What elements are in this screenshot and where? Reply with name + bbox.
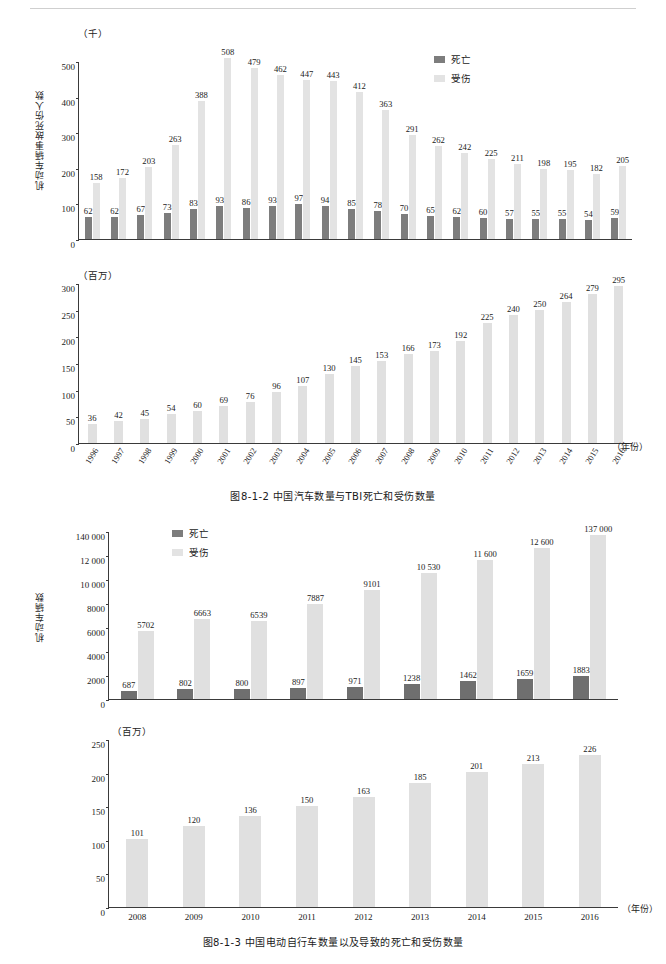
bar-value-label: 6663	[194, 608, 211, 618]
bar-value-label: 65	[426, 205, 435, 215]
bar-value-label: 195	[564, 159, 577, 169]
bar: 163	[353, 797, 375, 907]
bar: 1238	[404, 684, 420, 699]
bar-group: 107	[290, 284, 316, 443]
y-axis-tick-label: 400	[62, 98, 80, 108]
bar: 120	[183, 826, 205, 907]
bar: 5702	[138, 631, 154, 699]
bar-group: 73263	[158, 62, 184, 239]
bar-group: 97447	[290, 62, 316, 239]
bars-container: 3642455460697696107130145153166173192225…	[79, 284, 632, 443]
bar-value-label: 45	[141, 408, 150, 418]
bar-value-label: 57	[505, 208, 514, 218]
x-axis-tick-label: 2013	[531, 446, 549, 466]
bar-value-label: 163	[357, 786, 370, 796]
x-axis-tick-label: 2015	[583, 446, 601, 466]
bar: 262	[435, 146, 442, 239]
bar: 802	[177, 689, 193, 699]
bar: 242	[461, 153, 468, 239]
x-axis-unit: （年份）	[622, 902, 658, 915]
x-axis-tick: 2000	[184, 443, 210, 489]
bar-group: 54182	[579, 62, 605, 239]
x-axis-tick-label: 2005	[320, 446, 338, 466]
unit-label: （百万）	[112, 724, 152, 738]
x-axis-tick: 2014	[553, 443, 579, 489]
bar-group: 192	[448, 284, 474, 443]
bar-value-label: 213	[527, 753, 540, 763]
bar-value-label: 85	[347, 198, 356, 208]
y-axis-tick-label: 250	[62, 311, 80, 321]
bar-group: 250	[527, 284, 553, 443]
x-axis-tick: 2006	[342, 443, 368, 489]
bar: 363	[382, 110, 389, 239]
x-axis-tick: 1996	[79, 443, 105, 489]
bar-value-label: 250	[533, 299, 546, 309]
bar-value-label: 6539	[250, 610, 267, 620]
x-axis-tick-label: 2011	[298, 912, 316, 922]
bar-group: 146211 600	[448, 532, 505, 699]
x-axis-tick: 2012	[500, 443, 526, 489]
bar-group: 57211	[500, 62, 526, 239]
y-axis-tick-label: 12 000	[80, 556, 109, 566]
bar: 96	[272, 392, 281, 443]
bar-group: 130	[316, 284, 342, 443]
bar-value-label: 55	[531, 208, 540, 218]
y-axis-tick-label: 0	[71, 444, 80, 454]
bar-value-label: 291	[406, 124, 419, 134]
bar-value-label: 198	[537, 158, 550, 168]
bar-value-label: 479	[248, 57, 261, 67]
x-axis-tick: 2001	[211, 443, 237, 489]
y-axis-tick-mark	[76, 98, 79, 99]
bar: 462	[277, 75, 284, 239]
y-axis-tick-label: 200	[62, 169, 80, 179]
bar-group: 65262	[421, 62, 447, 239]
y-axis-tick-mark	[76, 311, 79, 312]
y-axis-tick-label: 10 000	[80, 580, 109, 590]
x-axis-tick-label: 2003	[267, 446, 285, 466]
bar-value-label: 172	[116, 167, 129, 177]
bar: 800	[234, 689, 250, 699]
bar: 291	[409, 135, 416, 239]
bar-value-label: 1883	[573, 665, 590, 675]
bar: 78	[374, 211, 381, 239]
bar-value-label: 93	[268, 195, 277, 205]
bar: 205	[619, 166, 626, 239]
bar-group: 85412	[342, 62, 368, 239]
bar-value-label: 166	[402, 343, 415, 353]
bar: 59	[611, 218, 618, 239]
bar-value-label: 971	[349, 676, 362, 686]
y-axis-tick-label: 250	[92, 740, 110, 750]
bar: 62	[453, 217, 460, 239]
x-axis-tick: 2002	[237, 443, 263, 489]
bar: 388	[198, 101, 205, 239]
x-axis-tick-label: 2010	[452, 446, 470, 466]
y-axis-tick-mark	[76, 204, 79, 205]
y-axis-tick-mark	[106, 580, 109, 581]
bar: 67	[137, 215, 144, 239]
bar: 213	[522, 764, 544, 907]
bar-value-label: 158	[90, 172, 103, 182]
bar: 687	[121, 691, 137, 699]
bar-value-label: 226	[583, 744, 596, 754]
y-axis-tick-label: 100	[92, 841, 110, 851]
y-axis-tick-mark	[106, 807, 109, 808]
x-axis-tick: 1997	[105, 443, 131, 489]
bar-group: 8006539	[222, 532, 279, 699]
bar-value-label: 60	[479, 207, 488, 217]
bar-value-label: 225	[481, 312, 494, 322]
y-axis-tick-mark	[76, 240, 79, 241]
bar-group: 279	[579, 284, 605, 443]
y-axis-tick-label: 8000	[87, 604, 109, 614]
y-axis-tick-label: 100	[62, 204, 80, 214]
y-axis-tick-label: 150	[92, 807, 110, 817]
bar-group: 295	[606, 284, 632, 443]
plot-area: 3642455460697696107130145153166173192225…	[78, 284, 632, 444]
bar-value-label: 11 600	[473, 549, 496, 559]
bar-group: 213	[505, 740, 562, 907]
x-axis-tick: 2005	[316, 443, 342, 489]
bar-group: 45	[132, 284, 158, 443]
bar-value-label: 802	[179, 678, 192, 688]
bars-container: 6215862172672037326383388935088647993462…	[79, 62, 632, 239]
bar: 60	[480, 218, 487, 239]
x-axis-tick: 2004	[290, 443, 316, 489]
